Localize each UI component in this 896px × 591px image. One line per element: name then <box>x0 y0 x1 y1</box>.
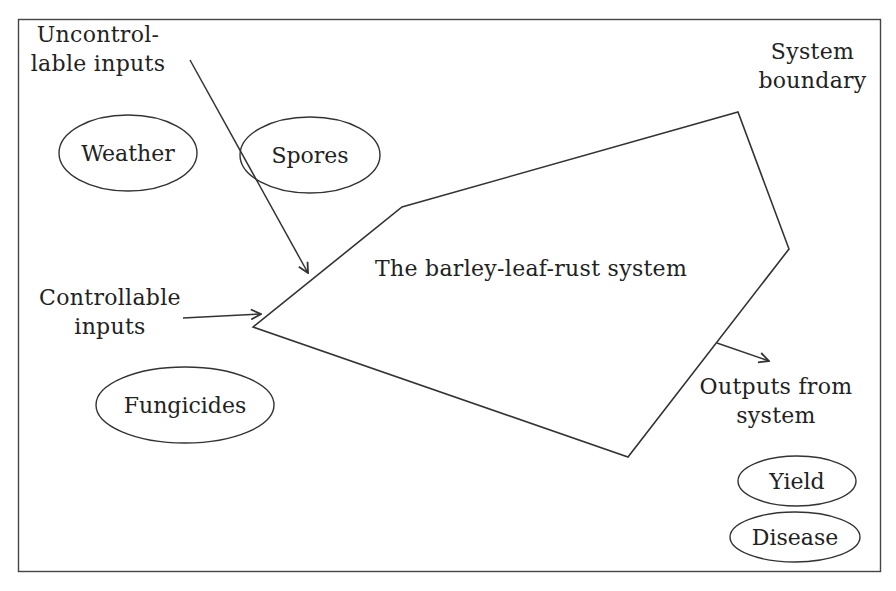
disease-label: Disease <box>730 512 860 562</box>
controllable-label-line2: inputs <box>30 312 190 341</box>
outputs-label-line1: Outputs from <box>686 372 866 401</box>
fungicides-label: Fungicides <box>96 367 274 443</box>
spores-label: Spores <box>240 117 380 193</box>
boundary-label-line1: System <box>745 37 880 66</box>
controllable-label-line1: Controllable <box>30 283 190 312</box>
uncontrollable-label-line2: lable inputs <box>28 49 168 78</box>
outputs-label-line2: system <box>686 401 866 430</box>
boundary-label-line2: boundary <box>745 66 880 95</box>
weather-label: Weather <box>59 115 197 191</box>
controllable-inputs-label: Controllable inputs <box>30 283 190 341</box>
uncontrollable-label-line1: Uncontrol- <box>28 20 168 49</box>
uncontrollable-inputs-label: Uncontrol- lable inputs <box>28 20 168 78</box>
system-boundary-label: System boundary <box>745 37 880 95</box>
system-title: The barley-leaf-rust system <box>375 254 687 283</box>
controllable-inputs-arrow <box>183 314 261 318</box>
outputs-arrow <box>717 343 769 361</box>
outputs-label: Outputs from system <box>686 372 866 430</box>
yield-label: Yield <box>738 456 856 506</box>
